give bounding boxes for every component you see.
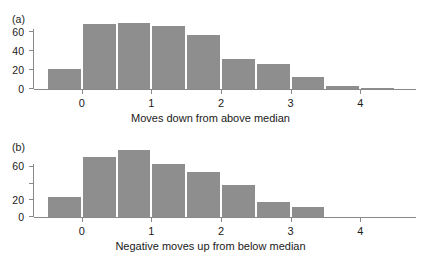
panel-b: (b) 0206001234 Negative moves up from be… — [0, 128, 421, 256]
x-axis-tick-label: 0 — [79, 226, 85, 237]
bar — [151, 164, 186, 217]
y-axis-tick — [29, 69, 34, 70]
y-axis-tick — [29, 199, 34, 200]
panel-a-x-axis — [34, 89, 416, 90]
x-axis-tick-label: 2 — [218, 226, 224, 237]
x-axis-tick-label: 1 — [148, 226, 154, 237]
panel-b-bars — [40, 146, 402, 217]
y-axis-tick — [29, 31, 34, 32]
bar — [256, 64, 291, 89]
bar — [186, 35, 221, 89]
y-axis-tick — [29, 216, 34, 217]
histogram-figure: (a) 020406001234 Moves down from above m… — [0, 0, 421, 257]
y-axis-tick-label: 20 — [12, 195, 24, 206]
bar — [82, 24, 117, 89]
x-axis-tick — [360, 89, 361, 94]
panel-a-bars — [40, 18, 402, 89]
x-axis-tick-label: 1 — [148, 98, 154, 109]
x-axis-tick — [221, 89, 222, 94]
panel-a: (a) 020406001234 Moves down from above m… — [0, 0, 421, 128]
x-axis-tick-label: 4 — [357, 226, 363, 237]
x-axis-tick-label: 4 — [357, 98, 363, 109]
y-axis-tick-label: 0 — [18, 84, 24, 95]
x-axis-tick — [82, 89, 83, 94]
bar — [256, 202, 291, 217]
y-axis-tick — [29, 166, 34, 167]
x-axis-tick — [291, 89, 292, 94]
panel-a-plot-area: 020406001234 — [40, 18, 402, 89]
x-axis-tick — [151, 89, 152, 94]
y-axis-tick-label: 60 — [12, 27, 24, 38]
y-axis-tick — [29, 88, 34, 89]
bar — [151, 26, 186, 89]
x-axis-tick-label: 2 — [218, 98, 224, 109]
x-axis-tick — [82, 217, 83, 222]
panel-b-x-axis-title: Negative moves up from below median — [0, 240, 421, 252]
panel-b-plot-area: 0206001234 — [40, 146, 402, 217]
bar — [221, 185, 256, 217]
bar — [47, 69, 82, 89]
x-axis-tick — [291, 217, 292, 222]
y-axis-tick-label: 60 — [12, 161, 24, 172]
panel-a-x-axis-title: Moves down from above median — [0, 112, 421, 124]
panel-b-y-axis — [33, 164, 34, 217]
bar — [82, 157, 117, 217]
y-axis-tick — [29, 183, 34, 184]
y-axis-tick-label: 0 — [18, 212, 24, 223]
y-axis-tick-label: 40 — [12, 46, 24, 57]
x-axis-tick-label: 3 — [288, 226, 294, 237]
x-axis-tick — [151, 217, 152, 222]
bar — [291, 77, 326, 89]
x-axis-tick — [221, 217, 222, 222]
x-axis-tick — [360, 217, 361, 222]
panel-b-tag: (b) — [12, 141, 25, 153]
y-axis-tick-label: 20 — [12, 65, 24, 76]
bar — [47, 197, 82, 217]
panel-a-y-axis — [33, 29, 34, 89]
y-axis-tick — [29, 50, 34, 51]
x-axis-tick-label: 3 — [288, 98, 294, 109]
bar — [117, 23, 152, 89]
x-axis-tick-label: 0 — [79, 98, 85, 109]
panel-a-tag: (a) — [12, 13, 25, 25]
bar — [186, 172, 221, 217]
bar — [221, 59, 256, 89]
bar — [117, 150, 152, 217]
bar — [291, 207, 326, 217]
panel-b-x-axis — [34, 217, 416, 218]
